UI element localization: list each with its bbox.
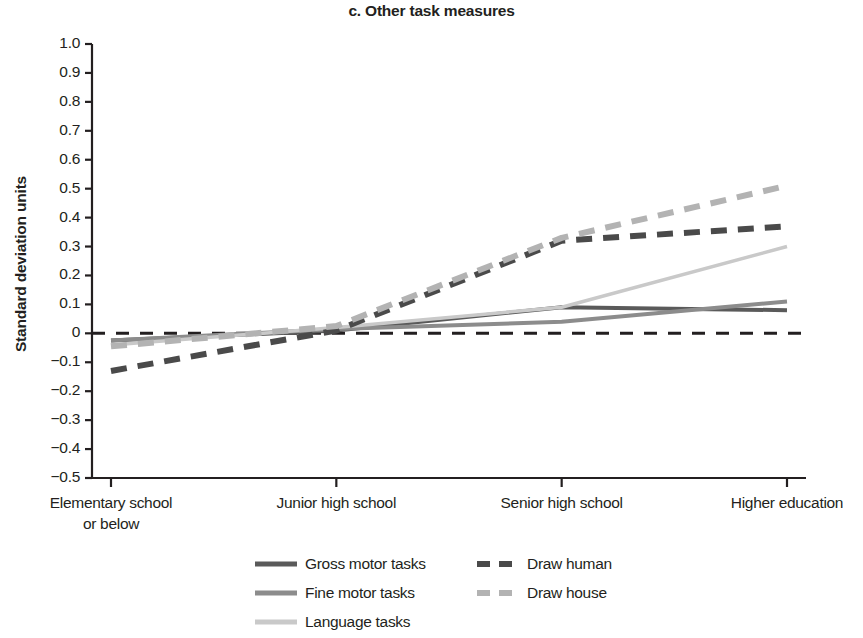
legend-item[interactable]: Fine motor tasks [255, 578, 415, 607]
legend-swatch-solid-icon [255, 557, 297, 571]
legend-swatch-solid-icon [255, 615, 297, 629]
legend-swatch-solid-icon [255, 586, 297, 600]
series-line-2 [111, 247, 787, 345]
legend-label: Draw house [527, 584, 607, 602]
data-series [111, 186, 787, 371]
chart-legend: Gross motor tasksFine motor tasksLanguag… [255, 549, 725, 637]
legend-label: Gross motor tasks [305, 555, 426, 573]
axes [85, 44, 806, 487]
legend-label: Draw human [527, 555, 612, 573]
legend-item[interactable]: Draw house [477, 578, 607, 607]
plot-area [0, 0, 863, 638]
legend-swatch-dashed-icon [477, 557, 519, 571]
legend-label: Language tasks [305, 613, 410, 631]
legend-label: Fine motor tasks [305, 584, 415, 602]
legend-item[interactable]: Gross motor tasks [255, 549, 426, 578]
series-line-3 [111, 226, 787, 371]
chart-figure: c. Other task measures Standard deviatio… [0, 0, 863, 638]
legend-item[interactable]: Draw human [477, 549, 612, 578]
legend-item[interactable]: Language tasks [255, 607, 410, 636]
legend-swatch-dashed-icon [477, 586, 519, 600]
series-line-4 [111, 186, 787, 347]
